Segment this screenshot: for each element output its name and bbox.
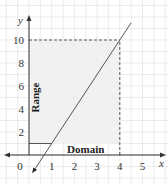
chart: 012345246810 x y Range Domain [0,0,168,185]
y-tick-label: 4 [19,103,25,115]
x-tick-label: 3 [94,160,100,172]
series-arrowhead [32,167,37,172]
y-axis-arrow [27,15,32,21]
y-tick-label: 6 [19,80,25,92]
x-tick-label: 0 [17,160,23,172]
domain-annotation: Domain [67,143,104,155]
x-tick-label: 1 [49,160,55,172]
x-tick-label: 2 [72,160,78,172]
y-tick-label: 10 [13,34,25,46]
y-tick-label: 8 [19,57,25,69]
x-tick-label: 4 [117,160,123,172]
x-axis-arrow-left [4,153,10,158]
x-axis-label: x [158,157,164,169]
y-axis-label: y [17,14,23,26]
x-tick-label: 5 [140,160,146,172]
shaded-region [29,40,120,144]
range-annotation: Range [29,82,41,112]
y-tick-label: 2 [19,126,25,138]
